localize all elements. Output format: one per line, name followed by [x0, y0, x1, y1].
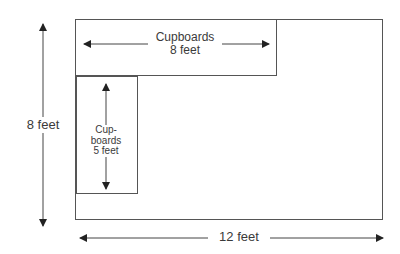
room-height-label: 8 feet [16, 117, 70, 133]
cupboards-top-label: Cupboards 8 feet [148, 31, 222, 56]
cupboards-left-title-line1: Cup- [90, 125, 122, 136]
cupboards-top-title: Cupboards [150, 31, 220, 44]
cupboards-left-length: 5 feet [90, 146, 122, 157]
room-width-label: 12 feet [208, 230, 270, 244]
room-outline [76, 20, 383, 220]
cupboards-top-length: 8 feet [150, 44, 220, 57]
cupboards-left-label: Cup- boards 5 feet [90, 125, 122, 157]
